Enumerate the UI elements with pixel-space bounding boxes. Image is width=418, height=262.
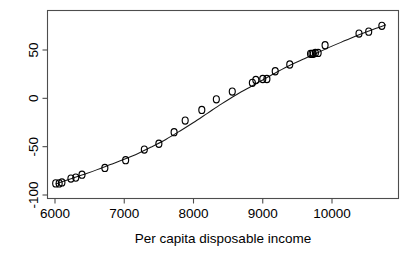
figure-background	[0, 0, 418, 262]
chart-canvas: 500-50-100 600070008000900010000 Per cap…	[0, 0, 418, 262]
y-axis-tick-label: -100	[26, 181, 41, 208]
y-axis-tick-label: -50	[26, 137, 41, 157]
x-axis-tick-label: 10000	[313, 206, 351, 221]
x-axis-tick-label: 8000	[178, 206, 208, 221]
y-axis-tick-label: 50	[26, 42, 41, 57]
y-axis-tick-label: 0	[26, 95, 41, 103]
scatter-plot-figure: 500-50-100 600070008000900010000 Per cap…	[0, 0, 418, 262]
x-axis-tick-label: 6000	[40, 206, 70, 221]
x-axis-tick-label: 7000	[109, 206, 139, 221]
x-axis-title: Per capita disposable income	[135, 231, 311, 246]
x-axis-tick-label: 9000	[248, 206, 278, 221]
